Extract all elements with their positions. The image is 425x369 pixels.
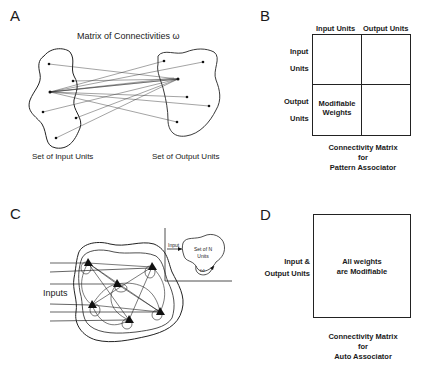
- output-units-label: Set of Output Units: [152, 152, 220, 161]
- matrix-b-caption: Connectivity Matrix for Pattern Associat…: [316, 143, 410, 173]
- panel-b-letter: B: [260, 7, 270, 24]
- input-units-blob: [29, 49, 81, 148]
- modifiable-weights-cell: Modifiable Weights: [315, 99, 359, 117]
- matrix-b-col-header-output: Output Units: [363, 24, 408, 33]
- matrix-b-horizontal-divider: [313, 84, 410, 85]
- panel-d-letter: D: [260, 206, 271, 223]
- matrix-b-row-header-output-1: Output: [284, 97, 309, 106]
- connection-lines: [43, 61, 209, 138]
- matrix-d-row-header-2: Output Units: [264, 269, 310, 278]
- all-weights-modifiable-cell: All weights are Modifiable: [314, 257, 410, 277]
- pattern-associator-matrix: Modifiable Weights: [312, 34, 411, 136]
- inset-input-label: Input: [168, 242, 179, 248]
- input-units-label: Set of Input Units: [32, 152, 93, 161]
- matrix-b-row-header-input-1: Input: [290, 47, 308, 56]
- panel-c-recurrent-network: [50, 242, 183, 341]
- matrix-d-caption: Connectivity Matrix for Auto Associator: [316, 332, 410, 362]
- auto-associator-matrix: All weights are Modifiable: [313, 214, 411, 318]
- panel-c-letter: C: [10, 205, 21, 222]
- inset-weight-label: ω: [200, 267, 205, 273]
- matrix-d-row-header-1: Input &: [284, 257, 310, 266]
- output-units-blob: [158, 49, 220, 136]
- inset-set-label: Set of N Units: [186, 246, 220, 260]
- inputs-label: Inputs: [43, 288, 68, 298]
- matrix-b-row-header-output-2: Units: [290, 114, 309, 123]
- matrix-b-col-header-input: Input Units: [316, 24, 355, 33]
- matrix-b-vertical-divider: [361, 35, 362, 135]
- matrix-b-row-header-input-2: Units: [290, 64, 309, 73]
